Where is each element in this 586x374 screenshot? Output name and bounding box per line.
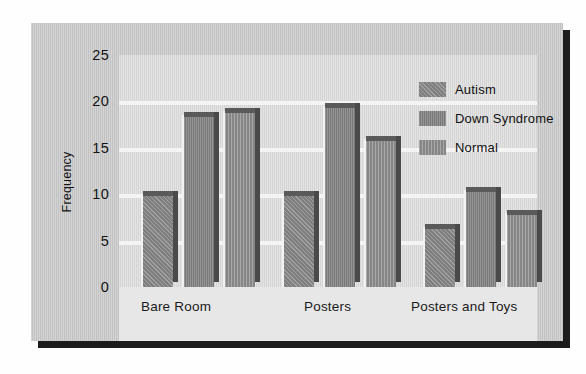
bar-normal-bare-room[interactable] (223, 111, 255, 287)
bar-group-posters (282, 55, 402, 287)
bar-down-syndrome-posters-and-toys[interactable] (464, 190, 496, 287)
legend-label-normal: Normal (455, 140, 498, 155)
bar-down-syndrome-bare-room[interactable] (182, 115, 214, 287)
bar-autism-posters-and-toys[interactable] (423, 227, 455, 287)
legend-item-normal[interactable]: Normal (419, 133, 563, 162)
bar-autism-posters[interactable] (282, 194, 314, 287)
bar-down-syndrome-posters[interactable] (323, 106, 355, 287)
bar-chart-card: Frequency 25 20 15 10 5 0 (31, 23, 563, 341)
legend: Autism Down Syndrome Normal (419, 75, 563, 162)
scanned-figure-frame: Frequency 25 20 15 10 5 0 (0, 0, 586, 374)
y-axis-title: Frequency (60, 152, 74, 213)
legend-swatch-normal-icon (419, 140, 446, 155)
bar-autism-bare-room[interactable] (141, 194, 173, 287)
x-tick-label-bare-room: Bare Room (141, 299, 211, 314)
y-tick-label-15: 15 (92, 140, 109, 156)
y-tick-label-20: 20 (92, 93, 109, 109)
y-axis: Frequency 25 20 15 10 5 0 (31, 23, 119, 341)
legend-label-autism: Autism (455, 82, 496, 97)
y-tick-label-10: 10 (92, 186, 109, 202)
legend-item-down-syndrome[interactable]: Down Syndrome (419, 104, 563, 133)
x-tick-label-posters: Posters (304, 299, 351, 314)
legend-label-down-syndrome: Down Syndrome (455, 111, 554, 126)
legend-item-autism[interactable]: Autism (419, 75, 563, 104)
y-tick-label-0: 0 (101, 279, 109, 295)
x-tick-label-posters-and-toys: Posters and Toys (411, 299, 518, 314)
legend-swatch-autism-icon (419, 82, 446, 97)
y-tick-label-5: 5 (101, 233, 109, 249)
bar-normal-posters-and-toys[interactable] (505, 213, 537, 287)
bar-normal-posters[interactable] (364, 139, 396, 288)
x-axis: Bare Room Posters Posters and Toys (119, 287, 537, 341)
bar-group-bare-room (141, 55, 261, 287)
legend-swatch-down-syndrome-icon (419, 111, 446, 126)
y-tick-label-25: 25 (92, 47, 109, 63)
plot-area: Bare Room Posters Posters and Toys Autis… (119, 55, 537, 341)
